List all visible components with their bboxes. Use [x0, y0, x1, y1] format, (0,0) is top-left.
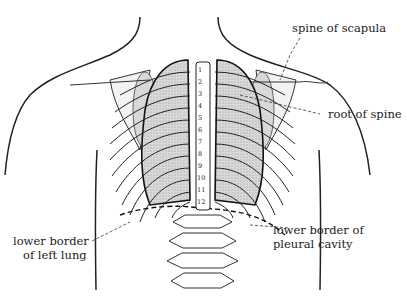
svg-text:11: 11 [197, 186, 205, 194]
svg-text:1: 1 [198, 66, 202, 74]
label-lower-border-lung-2: of left lung [23, 249, 87, 262]
svg-text:4: 4 [198, 102, 202, 110]
svg-text:7: 7 [198, 138, 202, 146]
label-spine-of-scapula: spine of scapula [292, 22, 386, 35]
label-root-of-spine: root of spine [328, 108, 402, 121]
svg-text:10: 10 [197, 174, 205, 182]
label-lower-border-pleural-2: pleural cavity [273, 238, 353, 251]
svg-text:9: 9 [198, 162, 202, 170]
svg-text:5: 5 [198, 114, 202, 122]
svg-text:3: 3 [198, 90, 202, 98]
label-lower-border-pleural-1: lower border of [273, 224, 364, 237]
svg-text:12: 12 [197, 198, 205, 206]
anatomy-diagram: 12 34 56 78 910 1112 spine of scapula ro… [0, 0, 407, 298]
svg-text:6: 6 [198, 126, 202, 134]
label-lower-border-lung-1: lower border [13, 235, 89, 248]
svg-text:8: 8 [198, 150, 202, 158]
svg-text:2: 2 [198, 78, 202, 86]
